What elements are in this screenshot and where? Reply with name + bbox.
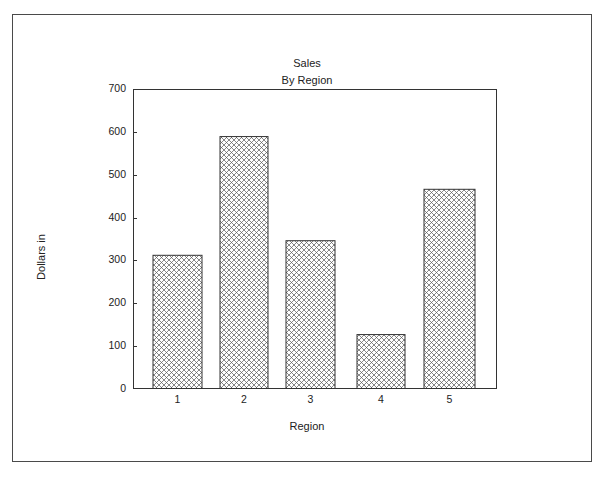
x-tick-label: 5 <box>440 393 460 405</box>
bar-region-4 <box>357 335 405 388</box>
x-tick-label: 2 <box>234 393 254 405</box>
x-axis-label: Region <box>0 420 614 432</box>
bar-region-2 <box>220 137 268 388</box>
bar-region-5 <box>424 189 475 388</box>
x-tick-label: 1 <box>168 393 188 405</box>
y-tick-label: 700 <box>0 82 126 94</box>
x-tick-label: 4 <box>371 393 391 405</box>
y-tick-label: 500 <box>0 168 126 180</box>
bar-region-3 <box>286 241 335 388</box>
bars-layer <box>134 90 496 388</box>
y-tick-label: 600 <box>0 125 126 137</box>
y-tick-label: 0 <box>0 382 126 394</box>
plot-area <box>133 89 497 389</box>
y-tick-label: 300 <box>0 253 126 265</box>
chart-title: Sales <box>0 57 614 69</box>
y-tick-label: 100 <box>0 339 126 351</box>
x-tick-label: 3 <box>301 393 321 405</box>
y-tick-label: 200 <box>0 296 126 308</box>
y-tick-label: 400 <box>0 211 126 223</box>
bar-region-1 <box>153 255 202 388</box>
